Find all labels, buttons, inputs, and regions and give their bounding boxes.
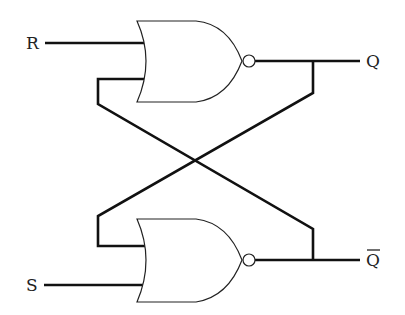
nor-gate-bottom <box>137 219 255 302</box>
label-q: Q <box>366 51 380 71</box>
inverter-bubble-bottom <box>243 254 255 266</box>
nor-gate-body-top <box>137 21 242 102</box>
label-qbar: Q <box>366 250 380 270</box>
label-r: R <box>26 33 40 53</box>
label-s: S <box>26 275 38 295</box>
nor-gate-body-bottom <box>137 219 242 302</box>
nor-gate-top <box>137 21 255 102</box>
inverter-bubble-top <box>243 55 255 67</box>
sr-latch-diagram: R S Q Q <box>0 0 405 315</box>
